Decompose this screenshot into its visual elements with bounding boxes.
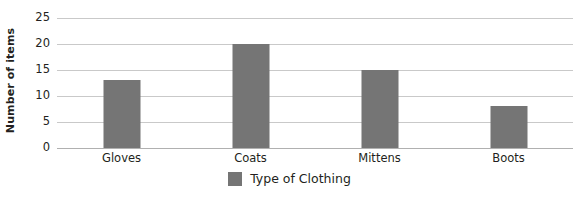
plot-area: 0510152025: [57, 18, 573, 148]
legend-label: Type of Clothing: [250, 173, 351, 186]
bar-slot: [186, 18, 315, 148]
y-tick-label-10: 10: [35, 90, 50, 102]
x-axis-category-labels: GlovesCoatsMittensBoots: [57, 150, 573, 168]
x-tick-label-coats: Coats: [186, 150, 315, 166]
bar-slot: [57, 18, 186, 148]
y-axis-title: Number of items: [0, 0, 22, 160]
bar-chart: Number of items 0510152025 GlovesCoatsMi…: [0, 0, 579, 199]
y-tick-label-15: 15: [35, 64, 50, 76]
bar-gloves[interactable]: [103, 80, 140, 148]
bar-slot: [315, 18, 444, 148]
bars: [57, 18, 573, 148]
y-axis-title-text: Number of items: [5, 27, 18, 132]
x-tick-label-gloves: Gloves: [57, 150, 186, 166]
gridline-0: 0: [57, 148, 573, 149]
y-tick-label-25: 25: [35, 12, 50, 24]
y-tick-label-5: 5: [43, 116, 50, 128]
bar-boots[interactable]: [490, 106, 527, 148]
legend: Type of Clothing: [0, 172, 579, 186]
x-tick-label-boots: Boots: [444, 150, 573, 166]
bar-coats[interactable]: [232, 44, 269, 148]
bar-slot: [444, 18, 573, 148]
legend-swatch-icon: [228, 172, 242, 186]
y-tick-label-20: 20: [35, 38, 50, 50]
x-tick-label-mittens: Mittens: [315, 150, 444, 166]
y-tick-label-0: 0: [43, 142, 50, 154]
bar-mittens[interactable]: [361, 70, 398, 148]
